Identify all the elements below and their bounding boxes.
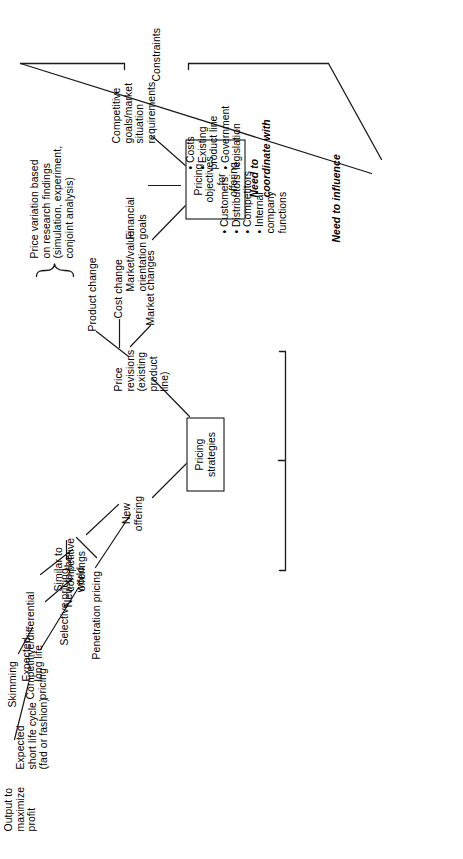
- diagram-canvas: Pricing strategies Pricing objectives fo…: [0, 0, 463, 859]
- node-output-to-maximize-profit[interactable]: Output to maximize profit: [2, 761, 37, 831]
- node-financial-goals[interactable]: Financial goals: [124, 183, 147, 239]
- node-penetration-pricing[interactable]: Penetration pricing: [90, 555, 102, 659]
- node-competitive-differential-pricing[interactable]: Competitive/differential pricing: [24, 569, 47, 699]
- node-price-variation-research[interactable]: Price variation based on research findin…: [28, 130, 74, 258]
- heading-need-to-coordinate-with: Need to coordinate with: [248, 105, 271, 197]
- heading-need-to-influence: Need to influence: [330, 144, 342, 242]
- node-constraints[interactable]: Constraints: [150, 13, 162, 81]
- box-pricing-strategies[interactable]: Pricing strategies: [186, 417, 224, 491]
- node-price-revisions[interactable]: Price revisions (existing product line): [112, 331, 170, 391]
- diagram-page: Pricing strategies Pricing objectives fo…: [0, 0, 463, 859]
- node-product-change[interactable]: Product change: [86, 245, 98, 331]
- brace-price-variation: [36, 263, 73, 276]
- list-need-to-coordinate-with: • Costs • Existing product line • Govern…: [184, 77, 242, 169]
- node-new-offering[interactable]: New offering: [120, 489, 143, 537]
- node-selective-pricing[interactable]: Selective pricing: [58, 555, 70, 645]
- link-objectives-competitive: [152, 136, 186, 166]
- link-objectives-marketvalue: [152, 204, 186, 239]
- node-skimming[interactable]: Skimming: [6, 645, 18, 707]
- node-cost-change[interactable]: Cost change: [112, 248, 124, 318]
- node-competitive-goals-market-situation[interactable]: Competitive goals/market situation requi…: [110, 71, 156, 143]
- constraint-arm-influence: [188, 63, 328, 69]
- link-newoffering-similar: [86, 504, 118, 534]
- link-strategies-newoffering: [152, 460, 189, 497]
